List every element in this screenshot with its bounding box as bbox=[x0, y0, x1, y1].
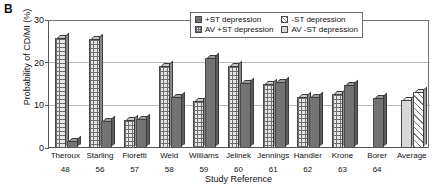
x-label-cell: Weld58 bbox=[152, 150, 187, 175]
bar bbox=[67, 141, 78, 147]
y-tick-label: 10 bbox=[34, 100, 44, 110]
x-label-cell: Borer64 bbox=[360, 150, 395, 175]
legend-swatch-icon bbox=[281, 26, 288, 33]
bar bbox=[344, 85, 355, 147]
bar-group bbox=[326, 19, 361, 147]
bar bbox=[171, 97, 182, 147]
x-axis-title: Study Reference bbox=[48, 174, 429, 184]
x-label-study-name: Jelinek bbox=[221, 150, 256, 161]
bar bbox=[55, 38, 66, 147]
x-axis-labels: Theroux48Starling56Fioretti57Weld58Willi… bbox=[48, 150, 429, 175]
bar bbox=[297, 97, 308, 147]
x-label-study-name: Starling bbox=[83, 150, 118, 161]
x-label-cell: Starling56 bbox=[83, 150, 118, 175]
bar bbox=[413, 92, 424, 147]
x-label-cell: Handler62 bbox=[290, 150, 325, 175]
plot-wrapper: 0102030 bbox=[48, 20, 429, 148]
bar bbox=[309, 97, 320, 147]
y-tick-label: 0 bbox=[39, 143, 44, 153]
bar-group bbox=[361, 19, 396, 147]
bar bbox=[101, 121, 112, 147]
x-label-cell: Jelinek60 bbox=[221, 150, 256, 175]
bar bbox=[89, 39, 100, 147]
legend-swatch-icon bbox=[281, 16, 288, 23]
legend-label: -ST depression bbox=[291, 15, 345, 24]
bar bbox=[136, 119, 147, 147]
bar-group bbox=[291, 19, 326, 147]
bar-group bbox=[118, 19, 153, 147]
bar-group bbox=[257, 19, 292, 147]
legend-swatch-icon bbox=[195, 26, 202, 33]
bar bbox=[275, 82, 286, 147]
legend-label: +ST depression bbox=[205, 15, 261, 24]
x-label-cell: Krone63 bbox=[325, 150, 360, 175]
legend-swatch-icon bbox=[195, 16, 202, 23]
bar bbox=[193, 101, 204, 147]
legend-item: -ST depression bbox=[281, 15, 357, 24]
plot-area: 0102030 bbox=[48, 20, 429, 148]
x-label-cell: Theroux48 bbox=[48, 150, 83, 175]
bar bbox=[401, 100, 412, 147]
legend-label: AV -ST depression bbox=[291, 25, 357, 34]
legend-item: AV -ST depression bbox=[281, 25, 357, 34]
x-label-cell: Average bbox=[394, 150, 429, 175]
x-label-study-name: Krone bbox=[325, 150, 360, 161]
x-label-study-name: Handler bbox=[290, 150, 325, 161]
bar bbox=[373, 98, 384, 147]
x-label-study-name: Williams bbox=[187, 150, 222, 161]
legend-label: AV +ST depression bbox=[205, 25, 273, 34]
x-label-study-name: Fioretti bbox=[117, 150, 152, 161]
bar-group bbox=[153, 19, 188, 147]
panel-label: B bbox=[4, 2, 13, 16]
bar bbox=[263, 84, 274, 147]
bar bbox=[124, 120, 135, 147]
bar-group bbox=[188, 19, 223, 147]
bar bbox=[240, 83, 251, 147]
legend-item: AV +ST depression bbox=[195, 25, 273, 34]
bar-group bbox=[395, 19, 430, 147]
x-label-cell: Williams59 bbox=[187, 150, 222, 175]
x-label-cell: Jennings61 bbox=[256, 150, 291, 175]
x-label-study-name: Weld bbox=[152, 150, 187, 161]
bar bbox=[228, 66, 239, 147]
y-axis-title: Probability of CD/MI (%) bbox=[22, 0, 32, 132]
bar-group bbox=[222, 19, 257, 147]
y-tick-label: 30 bbox=[34, 15, 44, 25]
bar-groups bbox=[49, 19, 430, 147]
x-label-study-name: Theroux bbox=[48, 150, 83, 161]
x-label-study-name: Average bbox=[394, 150, 429, 161]
bar-group bbox=[49, 19, 84, 147]
y-tick-label: 20 bbox=[34, 58, 44, 68]
bar bbox=[159, 66, 170, 147]
y-tick-mark bbox=[45, 148, 49, 149]
bar-group bbox=[84, 19, 119, 147]
x-label-study-name: Jennings bbox=[256, 150, 291, 161]
x-label-study-name: Borer bbox=[360, 150, 395, 161]
legend-item: +ST depression bbox=[195, 15, 273, 24]
bar bbox=[205, 58, 216, 147]
x-label-cell: Fioretti57 bbox=[117, 150, 152, 175]
chart-legend: +ST depression-ST depressionAV +ST depre… bbox=[190, 12, 363, 38]
bar bbox=[332, 94, 343, 147]
